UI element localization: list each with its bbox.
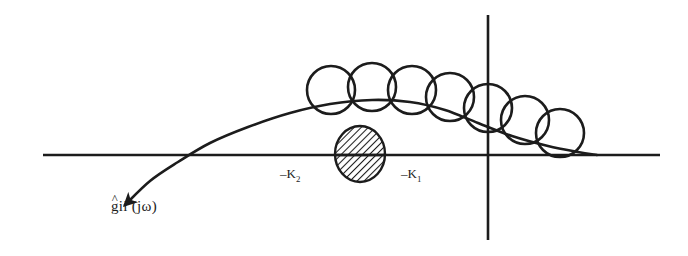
ii-indices: ii	[119, 198, 128, 214]
circumflex-accent: ^	[111, 193, 119, 206]
gain-upper-label: –K1	[401, 166, 421, 182]
nyquist-circle-criterion-diagram	[0, 0, 688, 256]
gain-lower-label: –K2	[280, 166, 300, 182]
figure-canvas: ^gii (jω) –K2 –K1	[0, 0, 688, 256]
forbidden-disk-group	[335, 126, 385, 182]
k-subscript: 2	[296, 174, 300, 184]
k-symbol: K	[287, 166, 296, 181]
g-hat-symbol: ^g	[111, 198, 119, 215]
jomega-argument: (jω)	[128, 198, 157, 214]
response-curve-label: ^gii (jω)	[111, 198, 157, 215]
k-symbol: K	[408, 166, 417, 181]
k-subscript: 1	[417, 174, 421, 184]
